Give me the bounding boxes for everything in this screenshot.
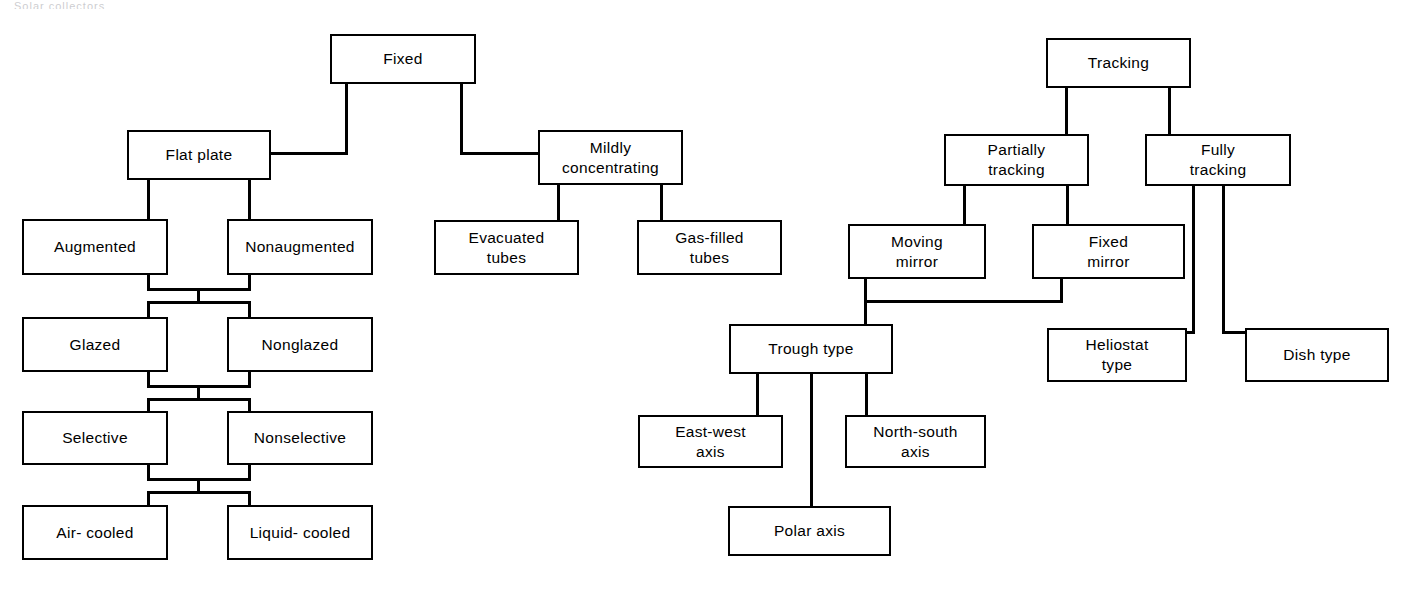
edge-fixed-to-flatplate-horizontal bbox=[268, 152, 348, 155]
edge-split-bar-3 bbox=[147, 491, 251, 494]
node-tracking[interactable]: Tracking bbox=[1046, 38, 1191, 88]
node-heliostat-type[interactable]: Heliostat type bbox=[1047, 328, 1187, 382]
node-trough-type[interactable]: Trough type bbox=[729, 324, 893, 374]
edge-trough-to-eastwest bbox=[756, 372, 759, 417]
node-north-south-axis[interactable]: North-south axis bbox=[845, 415, 986, 468]
node-partially-tracking[interactable]: Partially tracking bbox=[944, 134, 1089, 186]
node-fixed[interactable]: Fixed bbox=[330, 34, 476, 84]
edge-flatplate-to-nonaugmented bbox=[248, 178, 251, 220]
node-glazed[interactable]: Glazed bbox=[22, 317, 168, 372]
edge-fully-to-dish-vertical bbox=[1222, 184, 1225, 334]
edge-tracking-to-fully bbox=[1168, 86, 1171, 136]
edge-mildly-to-gasfilled bbox=[660, 183, 663, 222]
edge-flatplate-to-augmented bbox=[147, 178, 150, 220]
node-liquid-cooled[interactable]: Liquid- cooled bbox=[227, 505, 373, 560]
node-selective[interactable]: Selective bbox=[22, 411, 168, 465]
edge-mirror-join-to-trough bbox=[864, 300, 867, 326]
edge-fixed-to-mildly-vertical bbox=[460, 82, 463, 154]
node-polar-axis[interactable]: Polar axis bbox=[728, 506, 891, 556]
node-east-west-axis[interactable]: East-west axis bbox=[638, 415, 783, 468]
node-gas-filled-tubes[interactable]: Gas-filled tubes bbox=[637, 220, 782, 275]
node-dish-type[interactable]: Dish type bbox=[1245, 328, 1389, 382]
node-mildly-concentrating[interactable]: Mildly concentrating bbox=[538, 130, 683, 185]
node-moving-mirror[interactable]: Moving mirror bbox=[848, 224, 986, 279]
edge-tracking-to-partially bbox=[1065, 86, 1068, 136]
edge-trough-to-northsouth bbox=[865, 372, 868, 417]
edge-fully-to-dish-horizontal bbox=[1222, 331, 1246, 334]
edge-fully-to-heliostat-vertical bbox=[1192, 184, 1195, 334]
edge-fixed-to-flatplate-vertical bbox=[345, 82, 348, 154]
node-fully-tracking[interactable]: Fully tracking bbox=[1145, 134, 1291, 186]
node-nonselective[interactable]: Nonselective bbox=[227, 411, 373, 465]
classification-diagram: Solar collectors Fixed Flat plate Mildly… bbox=[0, 0, 1416, 591]
edge-split-bar-2 bbox=[147, 398, 251, 401]
clipped-header-text: Solar collectors bbox=[14, 0, 134, 9]
edge-partially-to-moving bbox=[963, 184, 966, 226]
edge-mirror-join-bar bbox=[864, 300, 1063, 303]
node-flat-plate[interactable]: Flat plate bbox=[127, 130, 271, 180]
edge-trough-to-polar bbox=[810, 372, 813, 508]
node-evacuated-tubes[interactable]: Evacuated tubes bbox=[434, 220, 579, 275]
node-fixed-mirror[interactable]: Fixed mirror bbox=[1032, 224, 1185, 279]
edge-mildly-to-evacuated bbox=[557, 183, 560, 222]
edge-fixed-to-mildly-horizontal bbox=[460, 152, 540, 155]
node-nonglazed[interactable]: Nonglazed bbox=[227, 317, 373, 372]
node-air-cooled[interactable]: Air- cooled bbox=[22, 505, 168, 560]
node-augmented[interactable]: Augmented bbox=[22, 219, 168, 275]
edge-fully-to-heliostat-horizontal bbox=[1186, 331, 1195, 334]
edge-partially-to-fixedmirror bbox=[1066, 184, 1069, 226]
node-nonaugmented[interactable]: Nonaugmented bbox=[227, 219, 373, 275]
edge-split-bar-1 bbox=[147, 301, 251, 304]
